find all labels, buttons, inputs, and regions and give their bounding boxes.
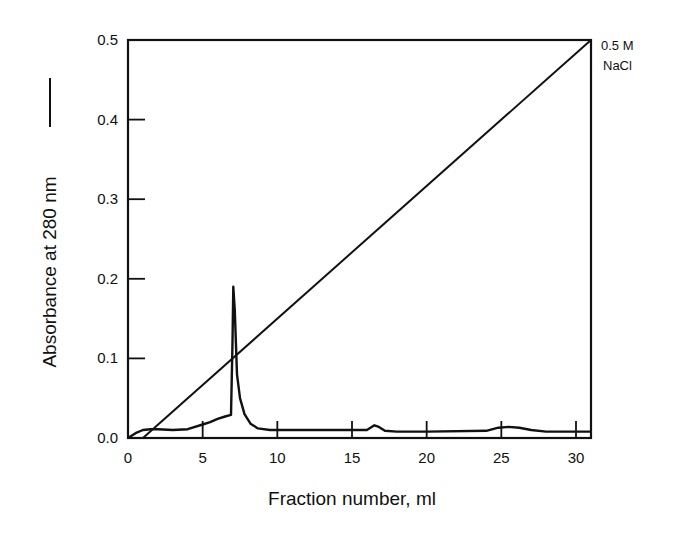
x-axis-title: Fraction number, ml	[268, 488, 436, 509]
x-tick-label: 25	[493, 449, 510, 466]
nacl-annotation-line1: 0.5 M	[601, 38, 634, 53]
chromatogram-chart: 0510152025300.00.10.20.30.40.5 Fraction …	[0, 0, 679, 538]
nacl-annotation-line2: NaCl	[603, 58, 632, 73]
y-tick-label: 0.0	[97, 429, 118, 446]
x-tick-label: 15	[344, 449, 361, 466]
x-tick-label: 0	[124, 449, 132, 466]
x-tick-label: 5	[198, 449, 206, 466]
nacl-gradient-line	[143, 40, 591, 438]
x-tick-label: 10	[269, 449, 286, 466]
x-tick-label: 30	[568, 449, 585, 466]
y-axis-title: Absorbance at 280 nm	[39, 176, 60, 367]
x-tick-label: 20	[418, 449, 435, 466]
y-tick-label: 0.1	[97, 349, 118, 366]
y-tick-label: 0.5	[97, 31, 118, 48]
plot-frame	[128, 40, 591, 438]
y-tick-label: 0.3	[97, 190, 118, 207]
y-tick-label: 0.4	[97, 111, 118, 128]
y-tick-label: 0.2	[97, 270, 118, 287]
absorbance-trace	[128, 287, 591, 438]
